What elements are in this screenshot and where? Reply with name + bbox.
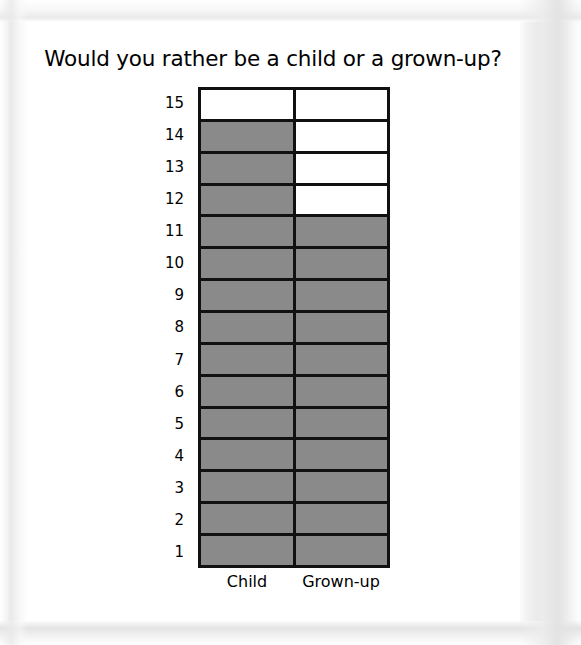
bar-cell (201, 377, 296, 406)
y-axis-tick-label: 13 (140, 151, 190, 183)
bar-cell (296, 186, 388, 215)
grid-row (201, 122, 387, 154)
y-axis-tick-label: 11 (140, 215, 190, 247)
y-axis-tick-label: 6 (140, 376, 190, 408)
page-edge-top (0, 0, 581, 22)
bar-cell (296, 249, 388, 278)
y-axis-tick-label: 10 (140, 247, 190, 279)
bar-cell (296, 440, 388, 469)
y-axis-tick-label: 5 (140, 408, 190, 440)
page-edge-left (0, 0, 28, 645)
grid-row (201, 249, 387, 281)
bar-cell (201, 313, 296, 342)
y-axis-tick-label: 7 (140, 344, 190, 376)
bar-cell (296, 472, 388, 501)
bar-cell (296, 377, 388, 406)
bar-cell (201, 217, 296, 246)
bar-cell (201, 504, 296, 533)
bar-cell (296, 536, 388, 565)
grid-row (201, 217, 387, 249)
grid-row (201, 472, 387, 504)
page-edge-bottom (0, 621, 581, 645)
y-axis-tick-label: 9 (140, 279, 190, 311)
y-axis-tick-label: 12 (140, 183, 190, 215)
grid-row (201, 90, 387, 122)
y-axis-tick-label: 15 (140, 87, 190, 119)
bar-cell (201, 536, 296, 565)
chart-title: Would you rather be a child or a grown-u… (26, 46, 520, 71)
scanned-page: Would you rather be a child or a grown-u… (0, 0, 581, 645)
bar-cell (296, 504, 388, 533)
grid-row (201, 377, 387, 409)
grid-row (201, 313, 387, 345)
bar-cell (201, 122, 296, 151)
x-axis-category-label: Child (198, 572, 296, 591)
page-edge-right (519, 0, 581, 645)
grid-row (201, 440, 387, 472)
grid-row (201, 504, 387, 536)
bar-cell (296, 409, 388, 438)
bar-cell (201, 345, 296, 374)
grid-row (201, 345, 387, 377)
grid-row (201, 154, 387, 186)
bar-cell (296, 90, 388, 119)
bar-cell (201, 186, 296, 215)
bar-cell (201, 409, 296, 438)
bar-cell (201, 90, 296, 119)
bar-grid (198, 87, 390, 568)
grid-row (201, 281, 387, 313)
y-axis-tick-label: 3 (140, 472, 190, 504)
bar-cell (201, 472, 296, 501)
bar-cell (201, 154, 296, 183)
y-axis: 151413121110987654321 (140, 87, 190, 568)
bar-cell (296, 345, 388, 374)
bar-cell (296, 217, 388, 246)
bar-cell (296, 313, 388, 342)
plot-area (198, 87, 390, 568)
x-axis-category-label: Grown-up (292, 572, 390, 591)
grid-row (201, 536, 387, 565)
bar-cell (201, 281, 296, 310)
y-axis-tick-label: 2 (140, 504, 190, 536)
x-axis: ChildGrown-up (198, 572, 390, 591)
y-axis-tick-label: 4 (140, 440, 190, 472)
bar-cell (296, 281, 388, 310)
bar-cell (201, 249, 296, 278)
y-axis-tick-label: 14 (140, 119, 190, 151)
bar-cell (296, 122, 388, 151)
bar-cell (201, 440, 296, 469)
y-axis-tick-label: 8 (140, 311, 190, 343)
grid-row (201, 186, 387, 218)
y-axis-tick-label: 1 (140, 536, 190, 568)
grid-row (201, 409, 387, 441)
bar-cell (296, 154, 388, 183)
